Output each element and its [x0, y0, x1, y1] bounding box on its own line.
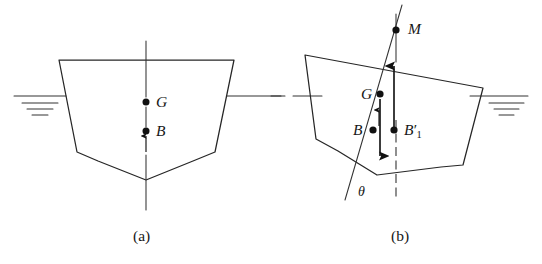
point-M-marker-b	[392, 26, 399, 33]
point-B1prime-marker-b	[390, 126, 397, 133]
panel-a	[14, 41, 281, 210]
caption-a: (a)	[133, 228, 150, 244]
label-G-b: G	[361, 86, 372, 102]
label-B1prime-base: B	[404, 121, 413, 138]
label-B1prime-b: B′1	[404, 122, 422, 140]
stability-figure: G B M G B B′1 θ (a) (b)	[0, 0, 542, 264]
label-theta-b: θ	[358, 185, 365, 199]
point-G-marker-a	[143, 99, 150, 106]
label-B1prime-sub: 1	[416, 129, 421, 140]
caption-b: (b)	[391, 228, 409, 244]
label-B-b: B	[353, 122, 362, 138]
panel-b	[271, 5, 528, 200]
label-M-b: M	[408, 21, 421, 37]
label-B-a: B	[156, 123, 165, 139]
figure-canvas	[0, 0, 542, 264]
point-G-marker-b	[376, 90, 383, 97]
point-B-marker-b	[369, 126, 376, 133]
label-G-a: G	[156, 94, 167, 110]
point-B-marker-a	[143, 128, 150, 135]
